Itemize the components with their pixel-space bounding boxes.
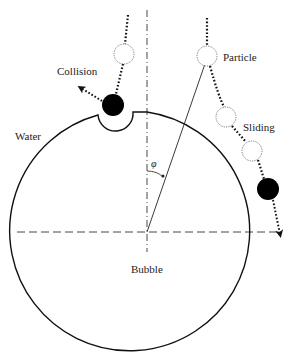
angle-arc (147, 171, 163, 177)
collision-rebound-arrow (81, 88, 102, 101)
label-particle: Particle (223, 51, 257, 63)
particle-collision-contact (102, 94, 124, 116)
radius-line (147, 58, 207, 232)
particle-sliding-1 (216, 107, 236, 127)
label-sliding: Sliding (243, 121, 275, 133)
particle-collision-approach (114, 44, 134, 64)
bubble-particle-diagram: φ Collision Particle Sliding Water Bubbl… (0, 0, 295, 356)
label-water: Water (15, 130, 41, 142)
angle-label: φ (151, 158, 157, 169)
particle-detach (257, 178, 279, 200)
particle-sliding-2 (242, 141, 262, 161)
label-bubble: Bubble (131, 263, 163, 275)
detach-arrow (273, 200, 280, 234)
bubble-outline (10, 112, 250, 351)
collision-approach-path (125, 15, 128, 44)
particle-start (197, 46, 217, 66)
collision-approach-path-2 (116, 64, 123, 94)
label-collision: Collision (57, 65, 98, 77)
angle-dot (162, 175, 165, 178)
